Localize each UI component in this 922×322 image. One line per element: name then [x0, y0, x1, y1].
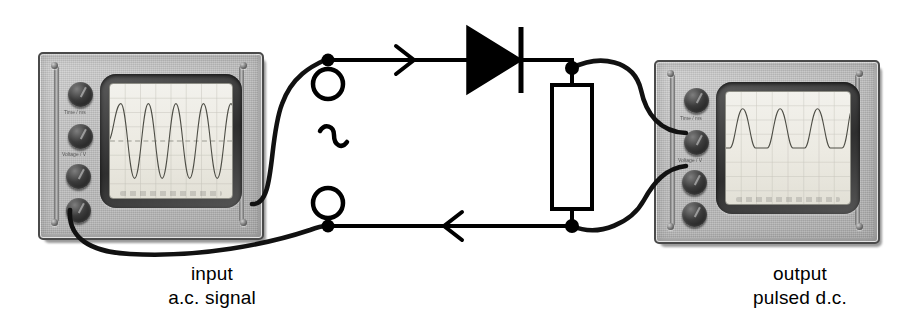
output-caption: output pulsed d.c.: [690, 262, 910, 310]
input-caption-line2: a.c. signal: [112, 286, 312, 310]
output-caption-line2: pulsed d.c.: [690, 286, 910, 310]
output-caption-line1: output: [690, 262, 910, 286]
terminal-top[interactable]: [313, 69, 343, 99]
diode: [468, 27, 536, 93]
rectifier-diagram: Time / ms Voltage / V: [0, 0, 922, 322]
junction-dots: [322, 54, 580, 234]
terminal-bottom[interactable]: [313, 188, 343, 218]
input-caption: input a.c. signal: [112, 262, 312, 310]
junction-dot-top-left: [322, 54, 335, 67]
junction-dot-bottom-right: [565, 219, 579, 233]
diode-triangle: [468, 28, 520, 92]
input-caption-line1: input: [112, 262, 312, 286]
resistor: [552, 85, 592, 209]
ac-source-symbol: [320, 126, 347, 145]
junction-dot-bottom-left: [322, 220, 335, 233]
current-arrows: [396, 46, 462, 240]
junction-dot-top-right: [565, 61, 579, 75]
